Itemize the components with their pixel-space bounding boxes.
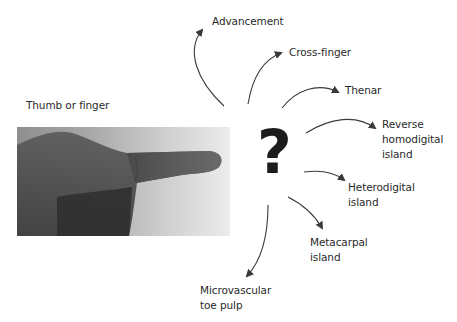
option-label-line: island [382,147,443,162]
arrow-reverse-homodigital [306,119,375,133]
option-metacarpal-island: Metacarpal island [310,235,368,265]
option-label-line: Advancement [212,14,284,29]
option-heterodigital-island: Heterodigital island [348,180,415,210]
option-cross-finger: Cross-finger [289,45,351,60]
option-label-line: toe pulp [200,298,271,313]
arrow-cross-finger [248,53,281,104]
option-advancement: Advancement [212,14,284,29]
option-label-line: island [348,195,415,210]
option-label-line: homodigital [382,132,443,147]
option-label-line: island [310,250,368,265]
arrow-microvascular [247,205,268,276]
option-label-line: Microvascular [200,283,271,298]
arrow-metacarpal [288,197,322,228]
arrow-heterodigital [304,171,344,180]
option-thenar: Thenar [345,83,381,98]
option-microvascular-toe-pulp: Microvascular toe pulp [200,283,271,313]
option-reverse-homodigital-island: Reverse homodigital island [382,117,443,162]
option-label-line: Thenar [345,83,381,98]
option-label-line: Metacarpal [310,235,368,250]
arrow-thenar [282,88,338,108]
option-label-line: Reverse [382,117,443,132]
option-label-line: Heterodigital [348,180,415,195]
option-label-line: Cross-finger [289,45,351,60]
arrow-advancement [194,30,224,106]
